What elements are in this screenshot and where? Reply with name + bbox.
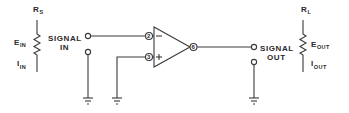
signal-in-terminal: SIGNAL IN — [48, 33, 91, 98]
noninverting-ground-wire — [117, 57, 146, 98]
opamp-circuit-diagram: RS EIN IIN SIGNAL IN 2 3 6 — [0, 0, 349, 113]
signal-in-label-line2: IN — [60, 43, 69, 52]
signal-out-terminal-circle — [251, 44, 256, 49]
source-resistor: RS EIN IIN — [14, 5, 43, 72]
ground-icon — [249, 98, 259, 104]
iout-label: IOUT — [311, 59, 327, 70]
eout-label: EOUT — [311, 40, 330, 50]
signal-out-terminal: SIGNAL OUT — [251, 44, 293, 98]
opamp: 2 3 6 — [146, 27, 198, 67]
rs-label: RS — [33, 5, 43, 15]
opamp-triangle-icon — [154, 27, 190, 67]
signal-in-return-terminal-circle — [85, 49, 90, 54]
signal-out-label-line2: OUT — [267, 53, 286, 62]
plus-sign — [156, 54, 162, 60]
rs-resistor-symbol — [34, 20, 40, 72]
ground-icon — [83, 98, 93, 104]
signal-in-terminal-circle — [85, 33, 90, 38]
signal-out-label-line1: SIGNAL — [260, 44, 294, 53]
rl-resistor-symbol — [300, 20, 306, 72]
iin-label: IIN — [17, 59, 26, 70]
rl-label: RL — [301, 5, 311, 15]
load-resistor: RL EOUT IOUT — [300, 5, 330, 72]
ground-icon — [112, 98, 122, 104]
signal-out-return-terminal-circle — [251, 59, 256, 64]
ein-label: EIN — [14, 38, 26, 48]
signal-in-label-line1: SIGNAL — [48, 34, 82, 43]
